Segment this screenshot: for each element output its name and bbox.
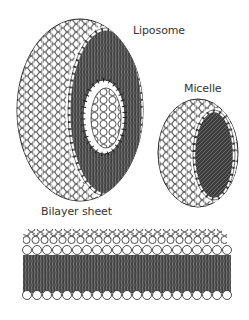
micelle-figure [158, 99, 238, 207]
bilayer-sheet-figure [23, 229, 232, 300]
liposome-label: Liposome [133, 24, 185, 37]
diagram-canvas [0, 0, 249, 320]
micelle-label: Micelle [184, 82, 222, 95]
bilayer-sheet-label: Bilayer sheet [41, 205, 112, 218]
liposome-figure [17, 19, 144, 201]
